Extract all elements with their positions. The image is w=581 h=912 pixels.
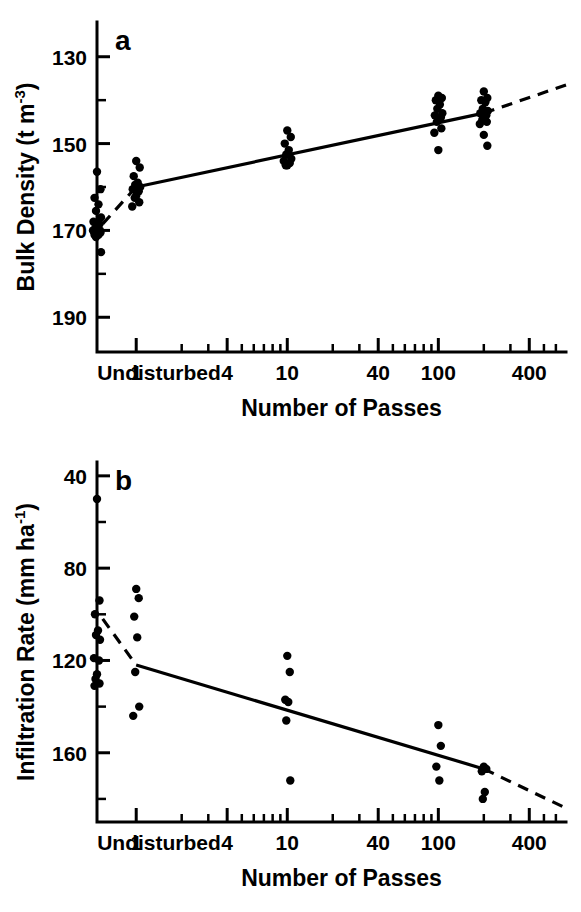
x-tick-label: 4: [221, 831, 233, 854]
data-point: [282, 716, 290, 724]
data-point: [130, 612, 138, 620]
data-point: [437, 742, 445, 750]
x-tick-label: 10: [276, 361, 299, 384]
data-point: [435, 776, 443, 784]
data-point: [478, 767, 486, 775]
data-point: [480, 131, 488, 139]
panel-label: b: [115, 465, 132, 496]
y-axis-title: Bulk Density (t m-3): [11, 83, 39, 292]
axis-lines: [97, 22, 566, 352]
data-point: [282, 161, 290, 169]
data-point: [286, 776, 294, 784]
data-point: [93, 168, 101, 176]
data-point: [287, 133, 295, 141]
data-point: [91, 610, 99, 618]
data-point: [136, 163, 144, 171]
fit-line-dashed-right: [484, 85, 566, 113]
y-tick-label: 160: [52, 742, 87, 765]
x-tick-label: 10: [276, 831, 299, 854]
data-point: [430, 129, 438, 137]
bulk-density-scatter-plot: 190170150130Undisturbed141040100400Numbe…: [0, 0, 581, 440]
data-point: [133, 633, 141, 641]
data-point: [432, 762, 440, 770]
data-point: [284, 698, 292, 706]
data-point: [132, 585, 140, 593]
data-point: [95, 596, 103, 604]
y-tick-label: 130: [52, 46, 87, 69]
data-points-group: [89, 87, 492, 256]
data-point: [476, 120, 484, 128]
data-points-group: [90, 495, 491, 803]
x-tick-label: 400: [512, 831, 547, 854]
data-point: [96, 185, 104, 193]
data-point: [129, 712, 137, 720]
fit-line-dashed-left: [103, 619, 137, 665]
y-tick-label: 80: [64, 557, 87, 580]
infiltration-rate-scatter-plot: 1601208040Undisturbed141040100400Number …: [0, 440, 581, 912]
y-axis-title: Infiltration Rate (mm ha-1): [11, 503, 39, 781]
data-point: [131, 668, 139, 676]
data-point: [95, 656, 103, 664]
x-axis-title: Number of Passes: [241, 865, 442, 891]
data-point: [93, 495, 101, 503]
x-tick-label: 100: [421, 831, 456, 854]
x-tick-label: 400: [512, 361, 547, 384]
x-tick-label: 40: [367, 831, 390, 854]
chart-panel-b: 1601208040Undisturbed141040100400Number …: [0, 440, 581, 912]
svg-text:Infiltration Rate (mm ha-1): Infiltration Rate (mm ha-1): [11, 503, 39, 781]
fit-line-solid: [136, 113, 484, 187]
data-point: [97, 248, 105, 256]
data-point: [128, 202, 136, 210]
figure-container: 190170150130Undisturbed141040100400Numbe…: [0, 0, 581, 912]
x-tick-label: 4: [221, 361, 233, 384]
data-point: [96, 635, 104, 643]
x-tick-label: Undisturbed: [97, 831, 221, 854]
y-tick-label: 190: [52, 306, 87, 329]
svg-text:Bulk Density (t m-3): Bulk Density (t m-3): [11, 83, 39, 292]
fit-line-solid: [136, 665, 484, 769]
data-point: [92, 233, 100, 241]
panel-label: a: [115, 25, 131, 56]
fit-line-dashed-right: [484, 769, 566, 808]
data-point: [135, 702, 143, 710]
x-tick-label: 1: [130, 831, 142, 854]
x-axis-title: Number of Passes: [241, 395, 442, 421]
chart-panel-a: 190170150130Undisturbed141040100400Numbe…: [0, 0, 581, 440]
x-tick-label: 100: [421, 361, 456, 384]
y-tick-label: 40: [64, 465, 87, 488]
data-point: [90, 682, 98, 690]
x-tick-label: 1: [130, 361, 142, 384]
data-point: [135, 594, 143, 602]
data-point: [434, 721, 442, 729]
y-tick-label: 150: [52, 133, 87, 156]
y-tick-label: 120: [52, 649, 87, 672]
data-point: [286, 668, 294, 676]
data-point: [283, 652, 291, 660]
data-point: [434, 146, 442, 154]
axis-lines: [97, 462, 566, 822]
data-point: [437, 124, 445, 132]
x-tick-label: 40: [367, 361, 390, 384]
data-point: [135, 198, 143, 206]
y-tick-label: 170: [52, 219, 87, 242]
x-tick-label: Undisturbed: [97, 361, 221, 384]
data-point: [479, 795, 487, 803]
data-point: [483, 142, 491, 150]
